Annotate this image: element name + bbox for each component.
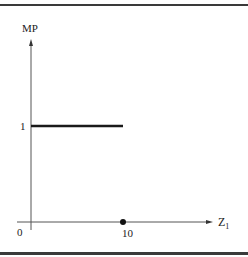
x-axis-label-sub: 1 — [225, 222, 229, 231]
chart: MP 1 0 10 Z1 — [0, 0, 248, 257]
y-axis-label: MP — [22, 22, 38, 34]
x-tick-label-10: 10 — [122, 227, 134, 239]
y-axis-arrow-icon — [29, 39, 33, 46]
x-axis-label-main: Z — [218, 215, 225, 229]
point-marker — [120, 219, 126, 225]
origin-label: 0 — [17, 226, 23, 238]
x-axis-arrow-icon — [206, 220, 213, 224]
frame-bottom-border — [0, 252, 248, 255]
y-tick-label-1: 1 — [20, 120, 26, 132]
x-axis-label: Z1 — [218, 215, 229, 231]
